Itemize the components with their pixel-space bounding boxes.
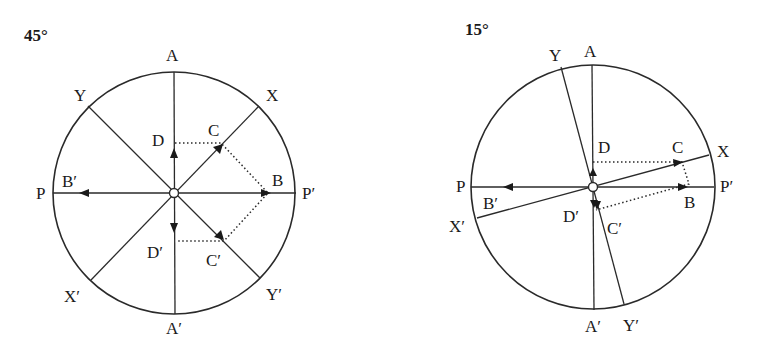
arrow-b <box>261 189 271 197</box>
label-y-prime: Y′ <box>266 285 282 304</box>
label-d-prime: D′ <box>563 207 579 226</box>
label-c-prime: C′ <box>206 251 221 270</box>
arrow-d-prime <box>170 223 178 233</box>
label-p-prime: P′ <box>720 177 733 196</box>
label-a: A <box>166 46 179 65</box>
label-c: C <box>208 121 219 140</box>
label-p: P <box>36 184 45 203</box>
center-pivot <box>589 183 598 192</box>
label-a-prime: A′ <box>166 319 182 338</box>
arrow-c-prime <box>214 230 224 240</box>
label-c: C <box>672 138 683 157</box>
label-y: Y <box>549 46 561 65</box>
arrow-d <box>170 148 178 158</box>
label-b: B <box>684 193 695 212</box>
arrow-b <box>678 183 688 191</box>
label-y: Y <box>74 86 86 105</box>
label-x: X <box>717 142 729 161</box>
label-p-prime: P′ <box>302 184 315 203</box>
label-d: D <box>598 138 610 157</box>
label-a-prime: A′ <box>585 317 601 336</box>
label-x-prime: X′ <box>64 287 80 306</box>
diagram-canvas: 45° A A′ P P′ X X′ Y Y′ B B′ C C′ D D′ <box>0 0 770 352</box>
diagram-45: 45° A A′ P P′ X X′ Y Y′ B B′ C C′ D D′ <box>24 26 315 338</box>
label-b-prime: B′ <box>62 172 77 191</box>
arrow-b-prime <box>503 183 513 191</box>
label-x: X <box>266 86 278 105</box>
diagram-title: 15° <box>465 20 489 39</box>
projection-lines <box>175 143 268 241</box>
diagram-15: 15° A A′ P P′ X X′ Y Y′ B B′ C C′ D D′ <box>449 20 733 336</box>
label-x-prime: X′ <box>449 217 465 236</box>
label-b-prime: B′ <box>483 194 498 213</box>
label-d-prime: D′ <box>147 243 163 262</box>
label-y-prime: Y′ <box>623 316 639 335</box>
projection-lines <box>593 162 689 210</box>
arrow-d <box>589 168 597 176</box>
diagram-title: 45° <box>24 26 48 45</box>
label-b: B <box>272 171 283 190</box>
center-pivot <box>170 189 179 198</box>
arrow-b-prime <box>79 189 89 197</box>
label-c-prime: C′ <box>607 219 622 238</box>
label-d: D <box>152 131 164 150</box>
label-p: P <box>456 177 465 196</box>
label-a: A <box>584 42 597 61</box>
